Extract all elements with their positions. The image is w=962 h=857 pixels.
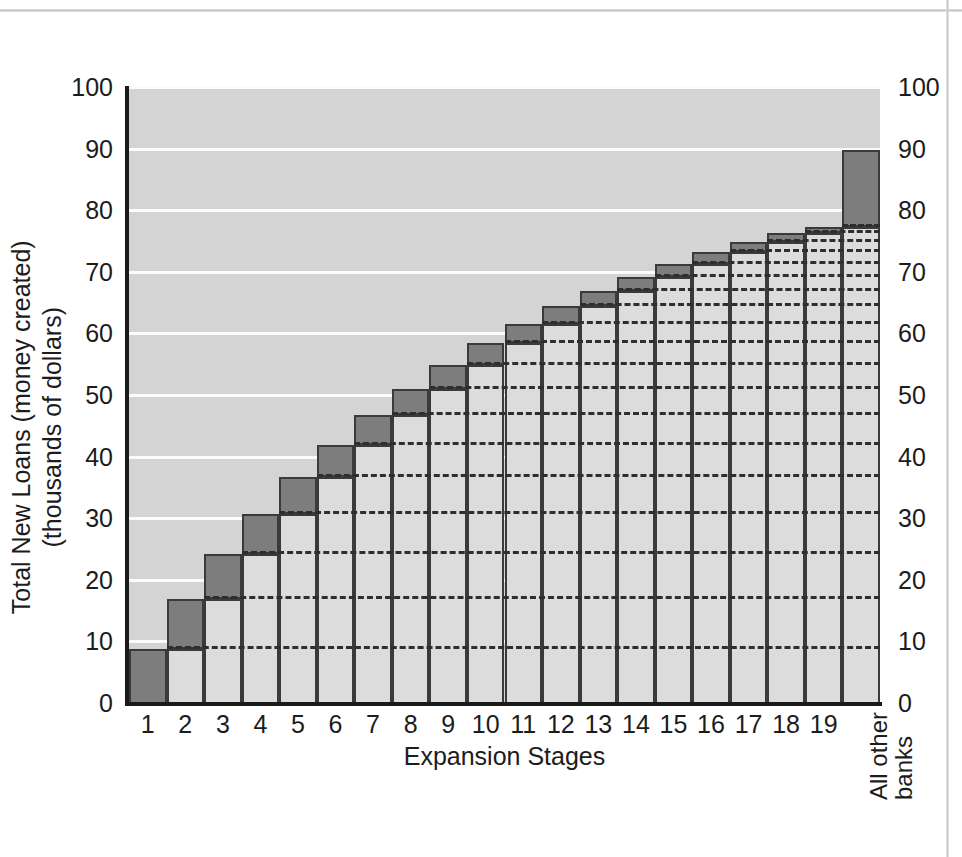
bar-1 [129,88,167,704]
y-tick-right-10: 10 [898,629,926,654]
level-dashline-8 [392,412,880,415]
x-tick-18: 18 [767,712,805,737]
level-dashline-14 [617,288,880,291]
bar-14 [617,88,655,704]
bar-segment-previous-total [392,415,430,704]
bar-segment-new-loans [354,415,392,445]
bar-segment-previous-total [505,343,543,704]
bar-6 [317,88,355,704]
level-dashline-7 [354,442,880,445]
y-tick-right-20: 20 [898,568,926,593]
y-axis-line [125,86,129,706]
level-dashline-18 [767,239,880,242]
x-tick-19: 19 [805,712,843,737]
y-tick-left-70: 70 [85,260,113,285]
x-axis-title: Expansion Stages [129,742,880,771]
level-dashline-3 [204,596,880,599]
bar-segment-new-loans [129,649,167,704]
x-tick-12: 12 [542,712,580,737]
level-dashline-2 [167,646,880,649]
page-edge-top [0,9,962,12]
x-tick-13: 13 [580,712,618,737]
y-tick-left-40: 40 [85,445,113,470]
bar-group [129,88,880,704]
bar-10 [467,88,505,704]
plot-area [129,88,880,704]
x-axis-line [125,702,882,706]
level-dashline-9 [429,386,880,389]
y-axis-title-line1: Total New Loans (money created) [6,117,37,737]
bar-16 [692,88,730,704]
bar-segment-previous-total [467,365,505,704]
bar-19 [805,88,843,704]
level-dashline-4 [242,551,880,554]
bar-13 [580,88,618,704]
bar-segment-new-loans [204,554,242,599]
bar-segment-previous-total [617,291,655,704]
bar-segment-previous-total [204,599,242,704]
x-tick-2: 2 [167,712,205,737]
level-dashline-5 [279,511,880,514]
bar-segment-previous-total [279,514,317,704]
y-tick-left-80: 80 [85,198,113,223]
y-tick-left-90: 90 [85,137,113,162]
money-multiplier-chart-figure: Total New Loans (money created) (thousan… [0,0,962,857]
bar-11 [505,88,543,704]
y-tick-right-80: 80 [898,198,926,223]
x-tick-1: 1 [129,712,167,737]
y-tick-right-50: 50 [898,383,926,408]
x-tick-6: 6 [317,712,355,737]
y-tick-left-20: 20 [85,568,113,593]
y-axis-tick-labels-left: 0102030405060708090100 [55,0,113,857]
level-dashline-16 [692,261,880,264]
y-tick-right-30: 30 [898,506,926,531]
x-tick-15: 15 [655,712,693,737]
x-tick-8: 8 [392,712,430,737]
bar-3 [204,88,242,704]
bar-17 [730,88,768,704]
bar-segment-previous-total [242,554,280,704]
bar-8 [392,88,430,704]
y-tick-right-100: 100 [898,75,940,100]
bar-segment-previous-total [692,264,730,704]
x-tick-17: 17 [730,712,768,737]
y-tick-left-50: 50 [85,383,113,408]
x-tick-4: 4 [242,712,280,737]
x-tick-10: 10 [467,712,505,737]
level-dashline-15 [655,274,880,277]
level-dashline-20 [842,224,880,227]
x-tick-5: 5 [279,712,317,737]
level-dashline-19 [805,230,880,233]
bar-segment-previous-total [354,445,392,704]
x-tick-3: 3 [204,712,242,737]
x-tick-7: 7 [354,712,392,737]
bar-segment-new-loans [279,477,317,513]
y-tick-right-40: 40 [898,445,926,470]
bar-segment-previous-total [842,227,880,704]
bar-5 [279,88,317,704]
level-dashline-17 [730,249,880,252]
y-tick-left-0: 0 [99,691,113,716]
bar-18 [767,88,805,704]
level-dashline-6 [317,474,880,477]
y-tick-right-70: 70 [898,260,926,285]
bar-segment-new-loans [242,514,280,554]
x-tick-14: 14 [617,712,655,737]
bar-segment-new-loans [167,599,205,649]
bar-4 [242,88,280,704]
x-tick-all-other-banks-line2: banks [891,712,916,800]
bar-2 [167,88,205,704]
level-dashline-11 [505,340,881,343]
bar-12 [542,88,580,704]
y-tick-right-90: 90 [898,137,926,162]
bar-all-other-banks [842,88,880,704]
bar-segment-new-loans [317,445,355,478]
bar-7 [354,88,392,704]
y-tick-right-60: 60 [898,321,926,346]
bar-segment-new-loans [842,150,880,227]
level-dashline-12 [542,321,880,324]
y-tick-left-10: 10 [85,629,113,654]
y-tick-left-30: 30 [85,506,113,531]
bar-segment-previous-total [429,389,467,704]
bar-segment-previous-total [767,242,805,704]
